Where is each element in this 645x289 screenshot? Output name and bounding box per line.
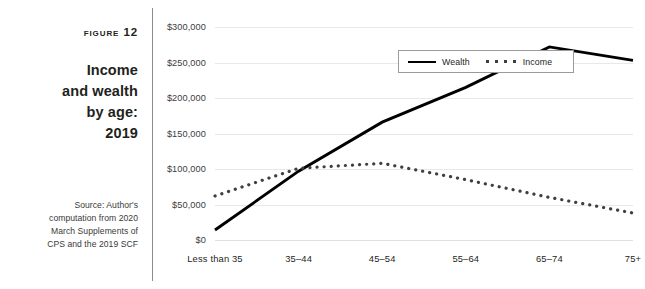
figure-title-line: 2019 [10, 123, 138, 144]
series-line-income [215, 163, 633, 213]
figure-title: Income and wealth by age: 2019 [10, 60, 138, 144]
x-axis-tick-label: 75+ [625, 253, 641, 264]
solid-line-icon [408, 61, 436, 63]
y-axis-tick-label: $50,000 [172, 200, 206, 210]
y-axis-tick-label: $250,000 [167, 58, 206, 68]
source-note-line: CPS and the 2019 SCF [10, 238, 138, 251]
y-axis-tick-label: $300,000 [167, 22, 206, 32]
x-axis-tick-label: 35–44 [285, 253, 312, 264]
source-note-line: computation from 2020 [10, 212, 138, 225]
figure-title-line: and wealth [10, 81, 138, 102]
dotted-line-icon [483, 60, 517, 63]
gridline [215, 240, 633, 241]
chart-legend: Wealth Income [398, 50, 574, 73]
legend-entry-wealth: Wealth [408, 57, 470, 67]
y-axis-tick-label: $150,000 [167, 129, 206, 139]
caption-panel: Figure 12 Income and wealth by age: 2019… [0, 0, 152, 289]
figure-number-label: Figure 12 [10, 26, 138, 38]
legend-entry-income: Income [483, 57, 552, 67]
x-axis-tick-label: 55–64 [452, 253, 479, 264]
caption-spacer [10, 144, 138, 199]
series-line-wealth [215, 47, 633, 230]
source-note: Source: Author's computation from 2020 M… [10, 199, 138, 251]
x-axis-tick-label: Less than 35 [187, 253, 243, 264]
chart-panel: $0$50,000$100,000$150,000$200,000$250,00… [152, 0, 645, 289]
source-note-line: March Supplements of [10, 225, 138, 238]
y-axis-tick-label: $100,000 [167, 164, 206, 174]
figure-title-line: Income [10, 60, 138, 81]
source-note-line: Source: Author's [10, 199, 138, 212]
y-axis-tick-label: $200,000 [167, 93, 206, 103]
x-axis-tick-label: 45–54 [369, 253, 396, 264]
legend-label-income: Income [523, 57, 552, 67]
y-axis-tick-label: $0 [196, 235, 206, 245]
legend-label-wealth: Wealth [442, 57, 470, 67]
figure-container: Figure 12 Income and wealth by age: 2019… [0, 0, 645, 289]
figure-title-line: by age: [10, 102, 138, 123]
x-axis-tick-label: 65–74 [536, 253, 563, 264]
